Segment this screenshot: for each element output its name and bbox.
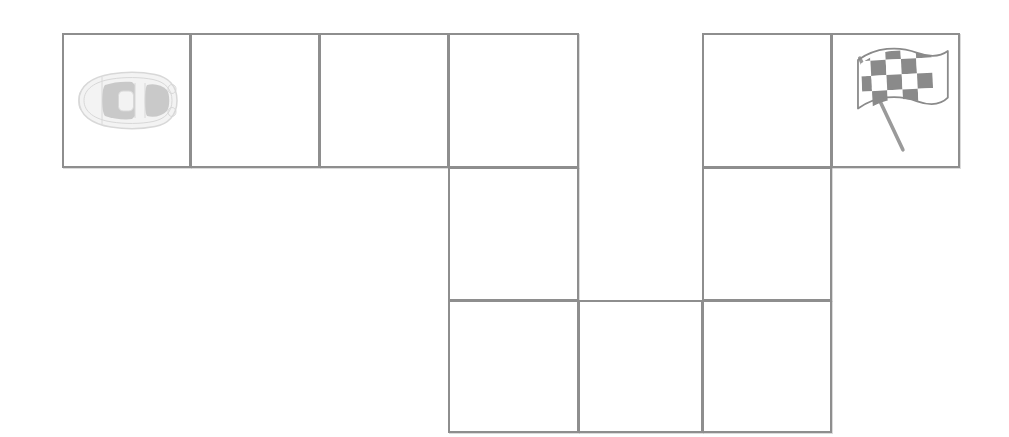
cell-row1-col4[interactable] [448,33,579,168]
cell-row2-col4[interactable] [448,167,579,301]
cell-row2-col6[interactable] [702,167,832,301]
cell-row3-col6[interactable] [702,300,832,433]
cell-row1-col1[interactable] [62,33,191,168]
cell-row3-col5[interactable] [578,300,703,433]
cell-row1-col3[interactable] [319,33,449,168]
cell-row1-col7[interactable] [831,33,960,168]
cell-row3-col4[interactable] [448,300,579,433]
puzzle-board [0,0,1009,437]
cell-row1-col2[interactable] [190,33,320,168]
cell-row1-col6[interactable] [702,33,832,168]
